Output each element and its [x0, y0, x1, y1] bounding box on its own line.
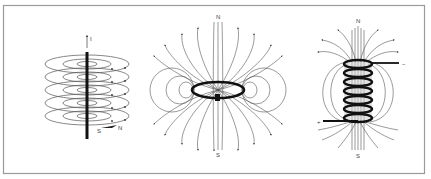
label-solenoid-minus: − [402, 61, 406, 67]
label-solenoid-plus: + [317, 119, 321, 125]
label-north: N [118, 125, 122, 131]
label-solenoid-north: N [356, 18, 360, 24]
panel-current-loop [150, 22, 286, 150]
compass-needle-icon [101, 125, 117, 128]
magnetic-field-figure: I S N N S [0, 0, 431, 179]
label-south: S [97, 128, 101, 134]
label-solenoid-south: S [356, 153, 360, 159]
label-loop-north: N [216, 14, 220, 20]
label-loop-south: S [216, 152, 220, 158]
label-current: I [90, 36, 92, 42]
panel-solenoid [318, 26, 399, 150]
panel-straight-wire: I S N [45, 36, 129, 139]
